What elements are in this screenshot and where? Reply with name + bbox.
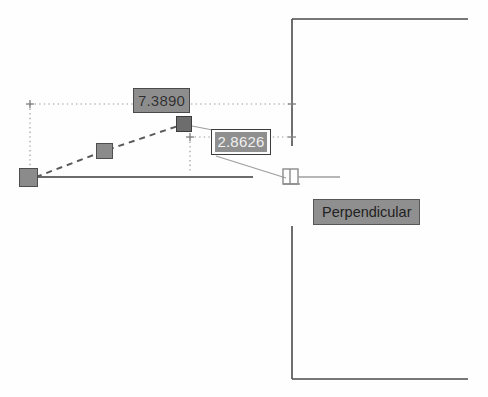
osnap-tooltip: Perpendicular (313, 199, 420, 225)
dynamic-input-second-field[interactable]: 2.8626 (211, 129, 271, 155)
cad-canvas[interactable]: 7.3890 2.8626 Perpendicular (0, 0, 488, 397)
osnap-tooltip-label: Perpendicular (322, 204, 411, 220)
dynamic-input-distance-field[interactable]: 7.3890 (133, 88, 190, 113)
perpendicular-marker-icon (283, 169, 340, 184)
tracking-node-left (26, 100, 34, 108)
tracking-node-vertex (186, 133, 194, 141)
dynamic-input-distance-value: 7.3890 (138, 92, 185, 109)
dynamic-input-second-value[interactable]: 2.8626 (215, 132, 267, 152)
grip-start[interactable] (19, 168, 38, 187)
leader-box-to-marker (216, 156, 286, 178)
grip-mid[interactable] (96, 143, 113, 159)
tracking-node-right (288, 100, 296, 108)
tracking-node-outline (288, 133, 296, 141)
grip-vertex[interactable] (176, 116, 192, 132)
